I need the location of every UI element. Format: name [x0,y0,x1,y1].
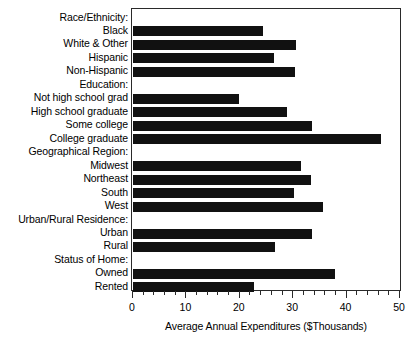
bar-midwest [133,161,301,171]
x-tick-36 [324,291,325,295]
x-axis [131,291,401,301]
category-label-status-of-home: Status of Home: [0,254,128,265]
x-tick-20 [239,291,240,298]
bar-high-school-graduate [133,107,287,117]
x-tick-26 [271,291,272,295]
x-tick-42 [356,291,357,295]
x-tick-34 [314,291,315,295]
x-tick-14 [207,291,208,295]
bars-layer [132,9,400,290]
x-axis-title: Average Annual Expenditures ($Thousands) [131,320,401,332]
category-label-midwest: Midwest [0,160,128,171]
category-label-college-graduate: College graduate [0,133,128,144]
bar-white-other [133,40,296,50]
category-label-hispanic: Hispanic [0,52,128,63]
x-tick-label-10: 10 [165,301,205,313]
x-tick-label-0: 0 [112,301,152,313]
x-tick-38 [335,291,336,295]
x-tick-44 [367,291,368,295]
category-label-non-hispanic: Non-Hispanic [0,65,128,76]
x-tick-48 [388,291,389,295]
category-label-some-college: Some college [0,119,128,130]
category-label-race-ethnicity: Race/Ethnicity: [0,12,128,23]
x-tick-8 [175,291,176,295]
bar-chart: Race/Ethnicity:BlackWhite & OtherHispani… [0,0,414,346]
category-label-south: South [0,187,128,198]
x-tick-12 [196,291,197,295]
bar-some-college [133,121,312,131]
x-tick-18 [228,291,229,295]
category-label-geographical-region: Geographical Region: [0,146,128,157]
x-tick-46 [378,291,379,295]
x-tick-24 [260,291,261,295]
x-tick-label-40: 40 [326,301,366,313]
bar-west [133,202,323,212]
category-label-column: Race/Ethnicity:BlackWhite & OtherHispani… [0,0,131,290]
x-tick-28 [282,291,283,295]
x-tick-10 [185,291,186,298]
x-tick-0 [132,291,133,298]
category-label-not-high-school-grad: Not high school grad [0,92,128,103]
bar-owned [133,269,335,279]
bar-northeast [133,175,311,185]
x-tick-label-50: 50 [379,301,414,313]
bar-hispanic [133,53,274,63]
bar-non-hispanic [133,67,295,77]
category-label-northeast: Northeast [0,173,128,184]
category-label-west: West [0,200,128,211]
x-tick-label-20: 20 [219,301,259,313]
category-label-white-other: White & Other [0,38,128,49]
x-tick-16 [217,291,218,295]
category-label-rented: Rented [0,281,128,292]
x-tick-2 [143,291,144,295]
plot-area [131,8,401,291]
category-label-high-school-graduate: High school graduate [0,106,128,117]
x-tick-50 [399,291,400,298]
category-label-education: Education: [0,79,128,90]
bar-college-graduate [133,134,381,144]
x-tick-30 [292,291,293,298]
bar-urban [133,229,312,239]
category-label-rural: Rural [0,240,128,251]
category-label-urban: Urban [0,227,128,238]
x-tick-6 [164,291,165,295]
x-tick-4 [153,291,154,295]
bar-not-high-school-grad [133,94,239,104]
x-tick-22 [249,291,250,295]
bar-black [133,26,263,36]
category-label-urban-rural-residence: Urban/Rural Residence: [0,214,128,225]
x-tick-label-30: 30 [272,301,312,313]
bar-rural [133,242,275,252]
x-tick-32 [303,291,304,295]
category-label-black: Black [0,25,128,36]
category-label-owned: Owned [0,267,128,278]
bar-south [133,188,294,198]
x-tick-40 [346,291,347,298]
